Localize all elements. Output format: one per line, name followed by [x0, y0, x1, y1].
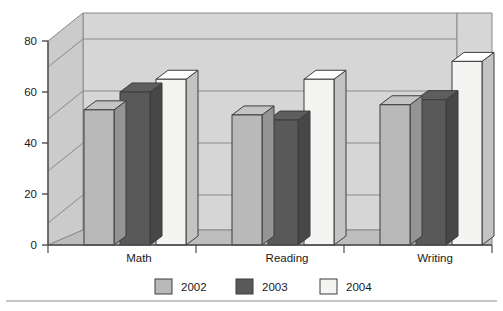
legend-swatch-2002 [155, 279, 172, 294]
bar-side-face [150, 83, 162, 245]
y-tick-label-20: 20 [24, 188, 37, 200]
chart-svg: 80 60 40 20 0 MathReadingWriting 2002200… [0, 0, 503, 311]
legend-swatch-2004 [320, 279, 337, 294]
bar-writing-2002 [380, 96, 422, 245]
y-tick-label-40: 40 [24, 137, 37, 149]
bar-reading-2002 [232, 106, 274, 245]
legend-label-2003: 2003 [262, 281, 288, 293]
bar-side-face [186, 70, 198, 245]
y-tick-label-60: 60 [24, 86, 37, 98]
bar-math-2002 [84, 101, 126, 245]
plot-left-wall [48, 13, 83, 245]
bar-chart-figure: 80 60 40 20 0 MathReadingWriting 2002200… [0, 0, 503, 311]
chart-legend: 200220032004 [155, 279, 372, 294]
legend-item-2004[interactable]: 2004 [320, 279, 372, 294]
bar-side-face [298, 111, 310, 245]
bar-side-face [410, 96, 422, 245]
category-label-reading: Reading [266, 252, 309, 264]
y-tick-label-0: 0 [31, 239, 37, 251]
bar-side-face [114, 101, 126, 245]
legend-label-2004: 2004 [346, 281, 372, 293]
category-label-math: Math [126, 252, 152, 264]
bar-front-face [380, 105, 410, 245]
legend-swatch-2003 [236, 279, 253, 294]
y-tick-label-80: 80 [24, 35, 37, 47]
legend-label-2002: 2002 [181, 281, 207, 293]
bar-side-face [482, 52, 494, 245]
bar-side-face [262, 106, 274, 245]
bar-side-face [446, 91, 458, 245]
category-label-writing: Writing [417, 252, 453, 264]
bar-front-face [84, 110, 114, 245]
legend-item-2002[interactable]: 2002 [155, 279, 207, 294]
category-labels: MathReadingWriting [126, 252, 453, 264]
y-axis: 80 60 40 20 0 [24, 35, 48, 251]
bar-side-face [334, 70, 346, 245]
legend-item-2003[interactable]: 2003 [236, 279, 288, 294]
bar-front-face [232, 115, 262, 245]
